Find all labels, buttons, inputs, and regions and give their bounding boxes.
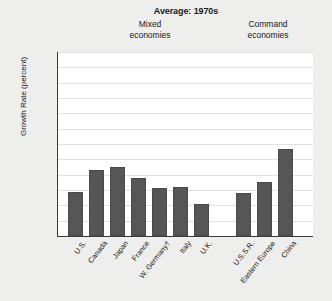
bar bbox=[131, 178, 146, 236]
gridline bbox=[58, 129, 313, 130]
x-tick-label: Italy bbox=[178, 239, 193, 255]
x-tick-label: U.K. bbox=[198, 239, 214, 256]
x-tick-label: Japan bbox=[111, 239, 130, 260]
bar bbox=[278, 149, 293, 236]
bar bbox=[110, 167, 125, 236]
bar bbox=[68, 192, 83, 236]
group-header-command-line2: economies bbox=[225, 30, 311, 41]
bar bbox=[194, 204, 209, 236]
group-header-mixed-line1: Mixed bbox=[110, 19, 190, 30]
chart-title: Average: 1970s bbox=[0, 6, 332, 16]
group-header-mixed-line2: economies bbox=[110, 30, 190, 41]
gridline bbox=[58, 159, 313, 160]
bar bbox=[89, 170, 104, 236]
x-tick-label: Canada bbox=[86, 239, 109, 265]
gridline bbox=[58, 67, 313, 68]
bar bbox=[152, 188, 167, 236]
gridline bbox=[58, 83, 313, 84]
plot-area bbox=[57, 52, 313, 237]
gridline bbox=[58, 144, 313, 145]
gridline bbox=[58, 113, 313, 114]
bar bbox=[236, 193, 251, 236]
group-header-command-economies: Command economies bbox=[225, 19, 311, 41]
group-header-command-line1: Command bbox=[225, 19, 311, 30]
gridline bbox=[58, 98, 313, 99]
bar-chart: Average: 1970s Mixed economies Command e… bbox=[0, 0, 332, 301]
bar bbox=[173, 187, 188, 236]
x-tick-label: U.S. bbox=[72, 239, 88, 256]
group-header-mixed-economies: Mixed economies bbox=[110, 19, 190, 41]
bar bbox=[257, 182, 272, 236]
x-tick-label: China bbox=[279, 239, 298, 260]
gridline bbox=[58, 52, 313, 53]
